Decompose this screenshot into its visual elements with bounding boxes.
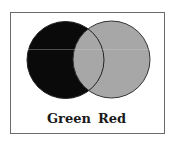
venn-diagram: Green Red [0,0,173,141]
label-green: Green [47,111,91,126]
red-circle [73,21,150,98]
label-red: Red [98,111,126,126]
